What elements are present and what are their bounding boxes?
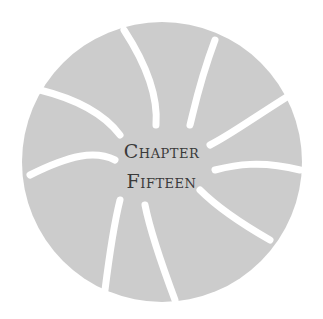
- chapter-label: Chapter: [0, 140, 323, 162]
- chapter-number: Fifteen: [0, 170, 323, 192]
